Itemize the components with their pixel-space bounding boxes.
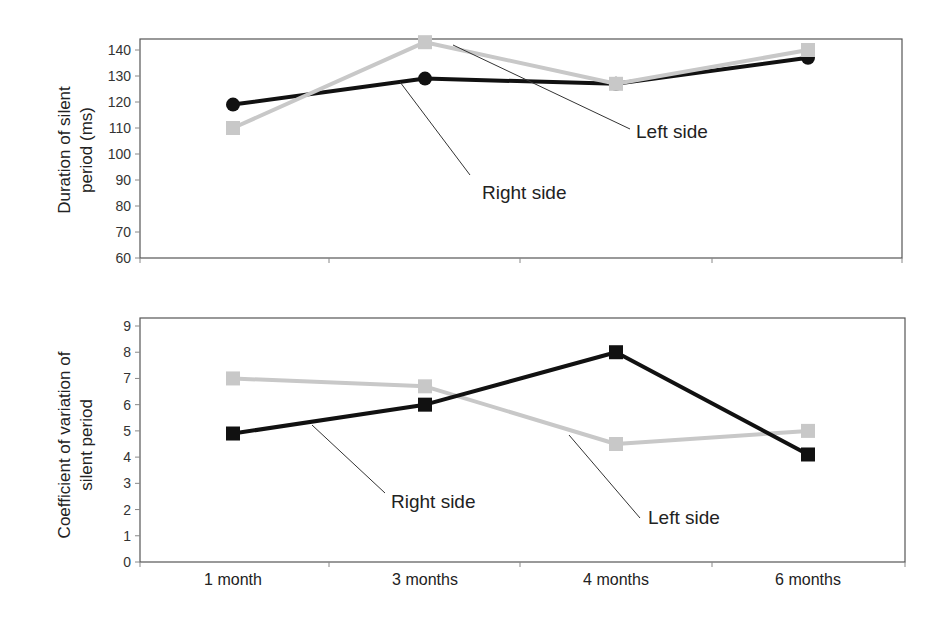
y-tick-label: 3 (123, 475, 131, 491)
data-point-marker (418, 398, 432, 412)
y-axis-label-line2: period (ms) (77, 107, 96, 193)
chart-canvas: 60708090100110120130140 Duration of sile… (0, 0, 948, 633)
series-group (226, 345, 815, 461)
x-tick-label: 6 months (775, 571, 841, 588)
y-tick-label: 9 (123, 318, 131, 334)
x-tick-label: 4 months (583, 571, 649, 588)
annotation-right-side: Right side (482, 182, 567, 203)
data-point-marker (418, 35, 432, 49)
data-point-marker (226, 98, 240, 112)
y-tick-label: 70 (115, 224, 131, 240)
y-axis: 0123456789 (123, 318, 140, 570)
data-point-marker (609, 345, 623, 359)
plot-area-frame (140, 39, 902, 258)
y-tick-label: 0 (123, 554, 131, 570)
y-axis-label-line1: Duration of silent (55, 86, 74, 214)
y-axis-label-line2: silent period (77, 399, 96, 491)
annotation-left-side: Left side (648, 507, 720, 528)
y-tick-label: 5 (123, 423, 131, 439)
y-tick-label: 100 (108, 146, 132, 162)
y-tick-label: 120 (108, 94, 132, 110)
y-tick-label: 80 (115, 198, 131, 214)
y-tick-label: 110 (109, 120, 132, 136)
data-point-marker (418, 72, 432, 86)
right-side-leader-line (400, 82, 470, 175)
figure: 60708090100110120130140 Duration of sile… (0, 0, 948, 633)
series-line (233, 352, 808, 454)
left-side-leader-line (453, 45, 630, 129)
x-tick-label: 3 months (392, 571, 458, 588)
series-left-side (226, 35, 815, 135)
left-side-leader-line (569, 435, 640, 518)
y-tick-label: 90 (115, 172, 131, 188)
y-tick-label: 60 (115, 250, 131, 266)
series-line (233, 378, 808, 444)
duration-chart: 60708090100110120130140 Duration of sile… (55, 35, 902, 266)
data-point-marker (418, 379, 432, 393)
x-axis: 1 month3 months4 months6 months (140, 562, 905, 588)
data-point-marker (801, 43, 815, 57)
series-right-side (226, 345, 815, 461)
data-point-marker (801, 447, 815, 461)
y-axis-label-line1: Coefficient of variation of (55, 351, 74, 538)
annotation-right-side: Right side (391, 491, 476, 512)
data-point-marker (226, 427, 240, 441)
data-point-marker (801, 424, 815, 438)
y-tick-label: 8 (123, 344, 131, 360)
data-point-marker (226, 121, 240, 135)
annotation-left-side: Left side (636, 121, 708, 142)
series-line (233, 42, 808, 128)
data-point-marker (226, 371, 240, 385)
y-tick-label: 2 (123, 502, 131, 518)
x-tick-label: 1 month (204, 571, 262, 588)
data-point-marker (609, 437, 623, 451)
plot-area-frame (140, 318, 905, 562)
series-group (226, 35, 815, 135)
x-axis (140, 258, 902, 263)
right-side-leader-line (312, 425, 385, 493)
y-tick-label: 140 (108, 42, 132, 58)
y-axis: 60708090100110120130140 (108, 42, 140, 266)
y-tick-label: 130 (108, 68, 132, 84)
coefficient-of-variation-chart: 0123456789 1 month3 months4 months6 mont… (55, 318, 905, 588)
y-tick-label: 7 (123, 370, 131, 386)
data-point-marker (609, 77, 623, 91)
series-right-side (226, 51, 815, 112)
y-tick-label: 6 (123, 397, 131, 413)
y-tick-label: 4 (123, 449, 131, 465)
y-tick-label: 1 (123, 528, 131, 544)
